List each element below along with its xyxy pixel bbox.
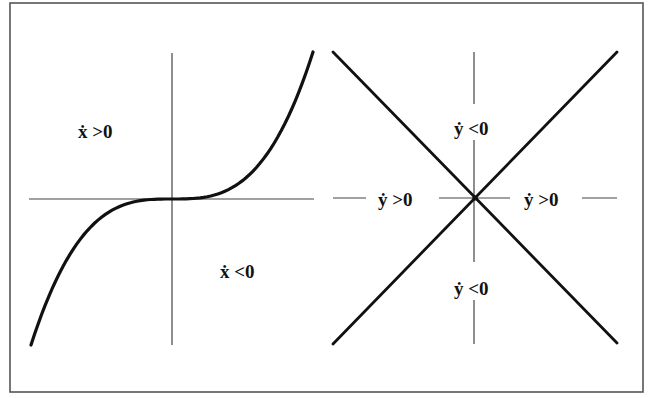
label-ydot-negative-bottom: ẏ <0 xyxy=(454,278,489,299)
label-ydot-positive-left: ẏ >0 xyxy=(378,189,413,210)
label-ydot-negative-top: ẏ <0 xyxy=(454,118,489,139)
label-xdot-negative: ẋ <0 xyxy=(220,261,255,282)
label-ydot-positive-right: ẏ >0 xyxy=(524,189,559,210)
equilibrium-point xyxy=(472,195,477,200)
label-xdot-positive: ẋ >0 xyxy=(78,121,113,142)
phase-diagram-figure: ẋ >0 ẋ <0 ẏ <0 ẏ >0 ẏ >0 ẏ <0 xyxy=(0,0,648,398)
